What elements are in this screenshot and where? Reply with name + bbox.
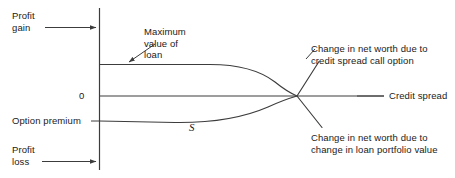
loan-portfolio-curve bbox=[100, 62, 320, 123]
maximum-value-of-loan-label: Maximum value of loan bbox=[144, 26, 186, 61]
option-premium-label: Option premium bbox=[12, 115, 81, 127]
credit-spread-call-option-label: Change in net worth due to credit spread… bbox=[311, 43, 428, 66]
profit-loss-label: Profit loss bbox=[12, 144, 35, 167]
loan-portfolio-value-label: Change in net worth due to change in loa… bbox=[311, 132, 438, 155]
payoff-diagram-figure: Profit gain Profit loss Option premium 0… bbox=[0, 0, 455, 178]
zero-origin-label: 0 bbox=[79, 90, 84, 102]
profit-gain-label: Profit gain bbox=[12, 10, 35, 33]
asset-symbol-label: S bbox=[189, 122, 195, 134]
credit-spread-axis-label: Credit spread bbox=[389, 90, 447, 102]
